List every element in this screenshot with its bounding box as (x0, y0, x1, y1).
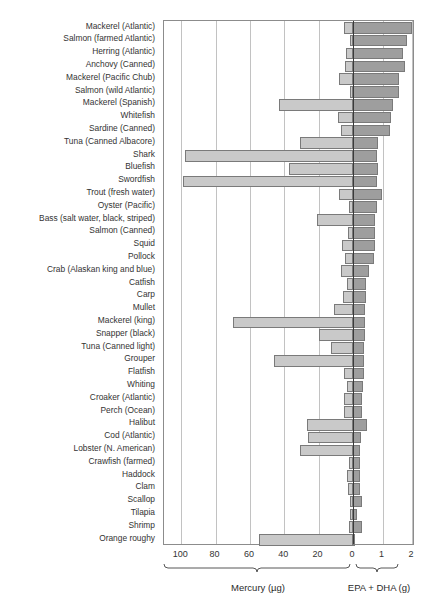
epa-dha-bar (353, 189, 382, 201)
epa-dha-bar (353, 355, 364, 367)
bar-row (164, 456, 413, 469)
mercury-bar (300, 137, 353, 149)
epa-dha-bar (353, 265, 369, 277)
bar-row (164, 508, 413, 521)
epa-dha-bar (353, 317, 365, 329)
bar-row (164, 405, 413, 418)
epa-dha-bar (353, 214, 375, 226)
mercury-bar (343, 291, 353, 303)
epa-dha-axis-title: EPA + DHA (g) (348, 582, 410, 593)
mercury-bar (233, 317, 353, 329)
epa-dha-bar (353, 112, 391, 124)
epa-dha-bar (353, 445, 360, 457)
category-label: Orange roughy (0, 531, 159, 545)
mercury-bar (317, 214, 353, 226)
bar-row (164, 72, 413, 85)
epa-dha-bar (353, 253, 374, 265)
bar-row (164, 47, 413, 60)
tick-mercury-100: 100 (173, 549, 188, 559)
bar-rows (164, 21, 413, 544)
bar-row (164, 533, 413, 546)
epa-dha-bar (353, 304, 365, 316)
mercury-bar (289, 163, 353, 175)
epa-dha-bar (353, 35, 407, 47)
bar-row (164, 418, 413, 431)
epa-dha-bar (353, 73, 399, 85)
bar-row (164, 34, 413, 47)
bar-row (164, 123, 413, 136)
plot-area (163, 20, 414, 545)
epa-dha-bar (353, 201, 377, 213)
bar-row (164, 303, 413, 316)
bar-row (164, 226, 413, 239)
tick-epa-2: 2 (408, 549, 413, 559)
mercury-bar (259, 534, 354, 546)
mercury-bar (185, 150, 353, 162)
mercury-bar (339, 73, 353, 85)
mercury-bar (307, 419, 353, 431)
bar-row (164, 187, 413, 200)
epa-dha-bar (353, 521, 362, 533)
mercury-bar (334, 304, 353, 316)
epa-dha-bar (353, 22, 412, 34)
bar-row (164, 482, 413, 495)
mercury-bar (274, 355, 353, 367)
mercury-bar (300, 445, 353, 457)
mercury-bar (342, 240, 353, 252)
gridline-mercury-0 (353, 21, 354, 544)
epa-dha-bar (353, 393, 362, 405)
bar-row (164, 239, 413, 252)
mercury-bar (338, 112, 353, 124)
epa-dha-bar (353, 406, 362, 418)
bar-row (164, 21, 413, 34)
bar-row (164, 328, 413, 341)
epa-dha-bar (353, 342, 364, 354)
epa-dha-bar (353, 419, 367, 431)
mercury-bar (344, 406, 353, 418)
epa-dha-bar (353, 125, 390, 137)
bar-row (164, 175, 413, 188)
mercury-bar (346, 48, 353, 60)
epa-dha-bar (353, 163, 378, 175)
bar-row (164, 495, 413, 508)
mercury-bar (341, 125, 353, 137)
bar-row (164, 162, 413, 175)
bar-row (164, 59, 413, 72)
mercury-bar (341, 265, 353, 277)
tick-epa-0: 0 (349, 549, 354, 559)
bar-row (164, 200, 413, 213)
tick-mercury-40: 40 (278, 549, 288, 559)
epa-dha-bar (353, 368, 364, 380)
mercury-axis-title: Mercury (µg) (231, 582, 285, 593)
bar-row (164, 392, 413, 405)
epa-dha-bar (353, 483, 360, 495)
mercury-bar (345, 61, 353, 73)
diverging-bar-chart: Mackerel (Atlantic)Salmon (farmed Atlant… (0, 0, 423, 606)
bar-row (164, 354, 413, 367)
bar-row (164, 213, 413, 226)
bar-row (164, 341, 413, 354)
mercury-bar (344, 393, 353, 405)
mercury-bar (319, 329, 353, 341)
bar-row (164, 380, 413, 393)
tick-mercury-60: 60 (244, 549, 254, 559)
epa-dha-bar (353, 176, 377, 188)
epa-dha-bar (353, 329, 365, 341)
tick-mercury-80: 80 (210, 549, 220, 559)
epa-dha-bar (353, 137, 378, 149)
epa-dha-bar (353, 457, 360, 469)
bar-row (164, 264, 413, 277)
epa-dha-bar (353, 227, 375, 239)
bar-row (164, 277, 413, 290)
mercury-bar (331, 342, 353, 354)
bar-row (164, 85, 413, 98)
bar-row (164, 444, 413, 457)
epa-dha-bar (353, 432, 361, 444)
bar-row (164, 98, 413, 111)
bar-row (164, 251, 413, 264)
bar-row (164, 431, 413, 444)
bar-row (164, 290, 413, 303)
mercury-bar (308, 432, 353, 444)
bar-row (164, 316, 413, 329)
tick-epa-1: 1 (379, 549, 384, 559)
